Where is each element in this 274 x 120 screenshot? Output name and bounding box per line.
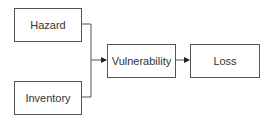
node-vulnerability: Vulnerability bbox=[107, 44, 176, 78]
node-loss: Loss bbox=[190, 44, 260, 78]
node-inventory: Inventory bbox=[14, 81, 82, 115]
node-label: Hazard bbox=[30, 19, 65, 31]
hazard-to-merge-line bbox=[82, 24, 91, 97]
node-label: Loss bbox=[213, 55, 236, 67]
node-label: Inventory bbox=[25, 92, 70, 104]
node-label: Vulnerability bbox=[112, 55, 172, 67]
node-hazard: Hazard bbox=[14, 8, 82, 42]
